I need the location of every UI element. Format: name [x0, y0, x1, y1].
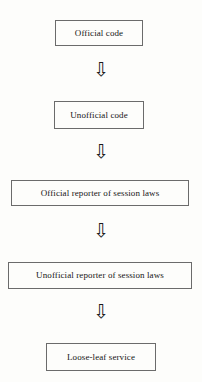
flow-node-label: Loose-leaf service	[67, 353, 135, 362]
down-arrow-icon: ⇩	[91, 302, 111, 321]
down-arrow-icon: ⇩	[91, 142, 111, 161]
flow-node-unofficial-reporter: Unofficial reporter of session laws	[8, 262, 192, 289]
flow-node-label: Official code	[75, 29, 123, 38]
flow-node-unofficial-code: Unofficial code	[54, 101, 144, 129]
flowchart-diagram: Official code ⇩ Unofficial code ⇩ Offici…	[0, 0, 202, 382]
flow-node-label: Official reporter of session laws	[41, 189, 160, 198]
flow-node-official-reporter: Official reporter of session laws	[11, 180, 189, 206]
down-arrow-icon: ⇩	[91, 60, 111, 79]
flow-node-label: Unofficial code	[70, 111, 128, 120]
flow-node-label: Unofficial reporter of session laws	[36, 271, 164, 280]
flow-node-loose-leaf-service: Loose-leaf service	[46, 343, 156, 371]
flow-node-official-code: Official code	[55, 20, 143, 46]
down-arrow-icon: ⇩	[91, 221, 111, 240]
